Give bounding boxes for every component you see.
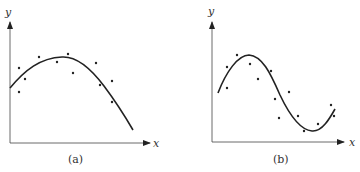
figure: y x (a) y x (b) [0, 0, 360, 172]
data-point [317, 123, 319, 125]
data-point [274, 98, 276, 100]
data-point [111, 80, 113, 82]
data-point [24, 78, 26, 80]
data-point [257, 78, 259, 80]
data-points [226, 54, 335, 132]
panel-a: y x (a) [4, 6, 160, 166]
y-axis-label: y [4, 6, 12, 19]
fit-curve [10, 57, 133, 130]
data-point [72, 72, 74, 74]
data-point [95, 62, 97, 64]
data-point [226, 66, 228, 68]
data-point [249, 63, 251, 65]
x-axis-label: x [349, 136, 356, 149]
data-point [67, 53, 69, 55]
y-axis-label: y [207, 5, 215, 18]
data-point [18, 91, 20, 93]
data-point [297, 115, 299, 117]
data-point [111, 101, 113, 103]
data-point [270, 70, 272, 72]
data-point [38, 56, 40, 58]
data-point [18, 67, 20, 69]
fit-curve [218, 55, 335, 131]
data-points [18, 53, 113, 103]
data-point [99, 84, 101, 86]
x-axis-label: x [153, 137, 160, 150]
data-point [333, 115, 335, 117]
caption: (b) [273, 153, 289, 166]
data-point [288, 91, 290, 93]
data-point [56, 61, 58, 63]
caption: (a) [68, 153, 83, 166]
data-point [226, 87, 228, 89]
panel-b: y x (b) [207, 5, 356, 166]
data-point [303, 130, 305, 132]
data-point [330, 104, 332, 106]
data-point [236, 54, 238, 56]
data-point [278, 117, 280, 119]
